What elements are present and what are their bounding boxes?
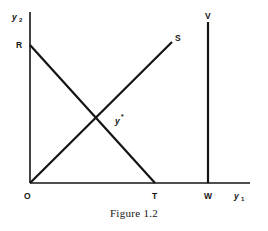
point-label-s: S [175,33,181,43]
point-label-r: R [16,40,22,50]
origin-label: O [24,191,31,201]
line-os [30,42,172,183]
line-rt [30,45,155,183]
y-axis-label-subscript: 2 [19,17,23,23]
equilibrium-label-superscript: * [121,113,124,120]
x-axis-label-subscript: 1 [241,196,245,202]
y-axis-label: y [11,12,18,22]
point-label-v: V [205,11,211,21]
economics-diagram: y 2 y 1 O R S T V W y * [0,0,268,231]
x-axis-label: y [233,191,240,201]
point-label-t: T [152,191,158,201]
figure-caption: Figure 1.2 [0,207,268,219]
equilibrium-label: y [114,116,121,126]
figure-container: y 2 y 1 O R S T V W y * Figure 1.2 [0,0,268,231]
point-label-w: W [204,191,213,201]
